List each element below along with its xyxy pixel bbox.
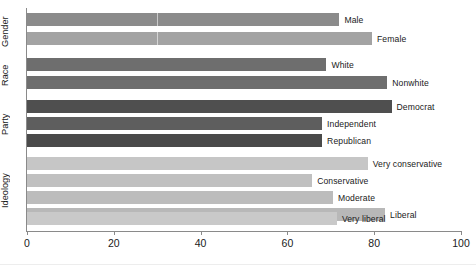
- bar-republican: [27, 134, 322, 147]
- bar-label-republican: Republican: [327, 136, 371, 146]
- bar-label-very-conservative: Very conservative: [373, 159, 443, 169]
- bar-chart: Gender Race Party Ideology Male Female W…: [0, 0, 476, 265]
- bar-label-independent: Independent: [327, 119, 376, 129]
- bar-moderate: [27, 191, 333, 204]
- group-label-gender: Gender: [0, 10, 24, 54]
- x-axis-tick: [114, 231, 115, 235]
- bar-row: Nonwhite: [27, 76, 461, 89]
- bar-row: Conservative: [27, 174, 461, 187]
- bar-row: Female: [27, 32, 461, 45]
- bar-label-very-liberal: Very liberal: [342, 214, 386, 224]
- x-axis-tick: [201, 231, 202, 235]
- x-axis-tick-label: 80: [368, 237, 380, 249]
- x-axis-line: [26, 231, 462, 232]
- faint-guide-line: [157, 0, 158, 56]
- x-axis-tick-label: 60: [282, 237, 294, 249]
- group-label-party: Party: [0, 96, 24, 152]
- bar-row: Male: [27, 13, 461, 26]
- group-label-ideology-text: Ideology: [0, 174, 10, 209]
- bar-label-female: Female: [377, 34, 406, 44]
- bar-white: [27, 58, 326, 71]
- bar-conservative: [27, 174, 312, 187]
- bar-row: Republican: [27, 134, 461, 147]
- bar-democrat: [27, 100, 392, 113]
- bar-label-democrat: Democrat: [397, 102, 435, 112]
- bar-nonwhite: [27, 76, 387, 89]
- group-label-gender-text: Gender: [0, 17, 10, 48]
- bar-label-conservative: Conservative: [317, 176, 368, 186]
- bar-row: Very conservative: [27, 157, 461, 170]
- bar-row: Moderate: [27, 191, 461, 204]
- bar-female: [27, 32, 372, 45]
- group-label-race-text: Race: [0, 64, 10, 85]
- bar-very-conservative: [27, 157, 368, 170]
- plot-area: Male Female White Nonwhite Democrat Inde…: [27, 8, 461, 231]
- bar-label-nonwhite: Nonwhite: [392, 78, 429, 88]
- bar-row: Democrat: [27, 100, 461, 113]
- bar-male: [27, 13, 339, 26]
- bar-label-white: White: [331, 60, 353, 70]
- x-axis-tick: [461, 231, 462, 235]
- x-axis-tick-label: 100: [452, 237, 470, 249]
- x-axis-tick: [27, 231, 28, 235]
- group-label-ideology: Ideology: [0, 152, 24, 230]
- bar-row-very-liberal: Very liberal: [27, 212, 461, 225]
- bar-independent: [27, 117, 322, 130]
- x-axis-tick-label: 20: [108, 237, 120, 249]
- bar-label-male: Male: [344, 15, 363, 25]
- x-axis-tick-label: 40: [195, 237, 207, 249]
- x-axis-tick: [374, 231, 375, 235]
- bar-very-liberal: [27, 212, 337, 225]
- group-label-party-text: Party: [0, 113, 10, 134]
- bar-row: Independent: [27, 117, 461, 130]
- x-axis-tick-label: 0: [24, 237, 30, 249]
- bar-label-moderate: Moderate: [338, 193, 375, 203]
- bar-row: White: [27, 58, 461, 71]
- x-axis-tick: [287, 231, 288, 235]
- group-label-race: Race: [0, 54, 24, 96]
